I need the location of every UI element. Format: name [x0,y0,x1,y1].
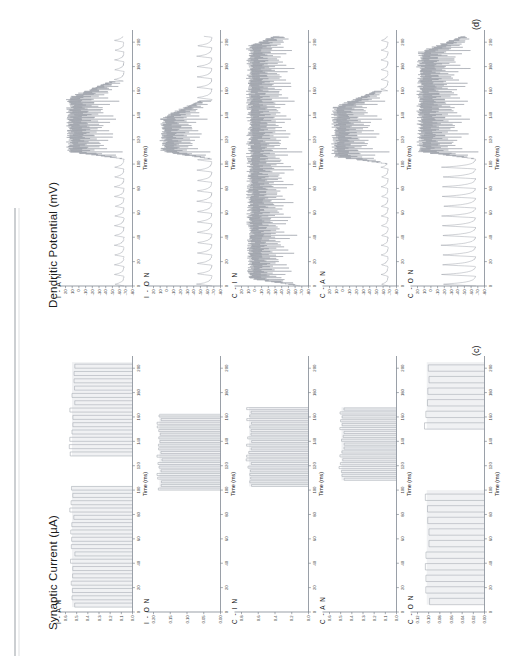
svg-text:20: 20 [399,259,404,264]
svg-text:0.05: 0.05 [201,615,206,624]
svg-text:180: 180 [311,388,316,396]
svg-text:80: 80 [487,185,492,190]
svg-text:0.2: 0.2 [371,615,376,621]
svg-text:-20: -20 [441,289,446,296]
svg-text:20: 20 [63,289,68,294]
svg-text:180: 180 [487,388,492,396]
svg-text:20: 20 [151,289,156,294]
svg-text:20: 20 [223,259,228,264]
svg-text:-10: -10 [259,289,264,296]
svg-text:100: 100 [487,486,492,494]
svg-text:140: 140 [399,437,404,445]
svg-text:0: 0 [399,610,404,613]
svg-text:80: 80 [223,511,228,516]
svg-text:0: 0 [311,284,316,287]
svg-text:-50: -50 [461,289,466,296]
svg-text:-50: -50 [373,289,378,296]
svg-text:180: 180 [399,388,404,396]
svg-text:120: 120 [487,136,492,144]
svg-text:180: 180 [399,62,404,70]
svg-text:-10: -10 [347,289,352,296]
svg-text:-70: -70 [123,289,128,296]
svg-text:60: 60 [223,536,228,541]
svg-text:0: 0 [487,284,492,287]
svg-text:80: 80 [399,185,404,190]
svg-text:-70: -70 [299,289,304,296]
svg-text:-70: -70 [211,289,216,296]
svg-text:20: 20 [487,585,492,590]
svg-text:180: 180 [135,62,140,70]
svg-text:-40: -40 [455,289,460,296]
svg-text:-60: -60 [204,289,209,296]
svg-text:40: 40 [487,560,492,565]
svg-text:160: 160 [223,87,228,95]
svg-text:40: 40 [399,560,404,565]
svg-text:0.4: 0.4 [85,615,90,621]
svg-text:10: 10 [245,289,250,294]
svg-text:160: 160 [399,87,404,95]
svg-text:60: 60 [399,536,404,541]
svg-text:80: 80 [223,185,228,190]
svg-text:C - O N: C - O N [406,595,413,624]
svg-text:80: 80 [487,511,492,516]
svg-text:160: 160 [223,413,228,421]
svg-text:I - O N: I - O N [142,597,149,624]
svg-text:0.10: 0.10 [184,615,189,624]
svg-text:180: 180 [223,388,228,396]
svg-text:I - O N: I - O N [142,271,149,298]
svg-text:160: 160 [135,413,140,421]
svg-text:140: 140 [135,437,140,445]
svg-text:120: 120 [135,462,140,470]
svg-text:80: 80 [311,511,316,516]
svg-text:160: 160 [311,87,316,95]
svg-text:-80: -80 [306,289,311,296]
svg-text:180: 180 [135,388,140,396]
svg-text:60: 60 [223,210,228,215]
svg-text:0: 0 [135,610,140,613]
svg-text:0: 0 [399,284,404,287]
svg-text:140: 140 [311,111,316,119]
svg-text:-50: -50 [285,289,290,296]
svg-text:0.3: 0.3 [360,615,365,621]
svg-text:-30: -30 [272,289,277,296]
svg-text:0.6: 0.6 [255,615,260,621]
svg-text:80: 80 [135,185,140,190]
svg-text:-80: -80 [218,289,223,296]
svg-text:0: 0 [428,289,433,292]
svg-text:200: 200 [399,364,404,372]
svg-text:0: 0 [311,610,316,613]
svg-text:120: 120 [223,462,228,470]
svg-text:140: 140 [311,437,316,445]
svg-text:-10: -10 [171,289,176,296]
svg-text:120: 120 [487,462,492,470]
svg-text:0.12: 0.12 [415,615,420,624]
svg-text:100: 100 [311,486,316,494]
svg-text:0.0: 0.0 [306,615,311,621]
svg-text:-30: -30 [96,289,101,296]
svg-text:-60: -60 [292,289,297,296]
svg-text:160: 160 [487,413,492,421]
svg-text:20: 20 [399,585,404,590]
svg-text:0.10: 0.10 [426,615,431,624]
svg-text:-80: -80 [130,289,135,296]
svg-text:120: 120 [399,136,404,144]
svg-text:140: 140 [223,437,228,445]
svg-text:40: 40 [399,234,404,239]
svg-text:0.02: 0.02 [470,615,475,624]
svg-text:0.00: 0.00 [218,615,223,624]
svg-text:80: 80 [311,185,316,190]
svg-text:100: 100 [487,160,492,168]
svg-text:10: 10 [69,289,74,294]
svg-text:0.1: 0.1 [118,615,123,621]
svg-text:60: 60 [311,210,316,215]
svg-text:-40: -40 [103,289,108,296]
svg-text:120: 120 [311,462,316,470]
plots-dendritic-potential: 020406080100120140160180200Time (ms)-80-… [0,0,511,326]
svg-text:0.06: 0.06 [448,615,453,624]
svg-text:200: 200 [487,364,492,372]
svg-text:10: 10 [333,289,338,294]
svg-text:140: 140 [223,111,228,119]
svg-text:10: 10 [421,289,426,294]
svg-text:140: 140 [399,111,404,119]
svg-text:-80: -80 [482,289,487,296]
